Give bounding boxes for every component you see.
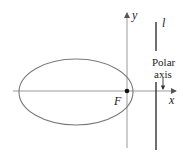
directrix-label: l (162, 16, 166, 30)
polar-label-line1: Polar (152, 56, 176, 68)
focus-label: F (113, 94, 122, 108)
x-axis-label: x (168, 93, 175, 107)
ellipse-polar-diagram: y l Polar axis F x (0, 0, 183, 158)
y-axis-label: y (131, 8, 138, 22)
polar-label-line2: axis (154, 68, 172, 80)
ellipse-curve (19, 59, 133, 125)
focus-point (125, 89, 130, 94)
